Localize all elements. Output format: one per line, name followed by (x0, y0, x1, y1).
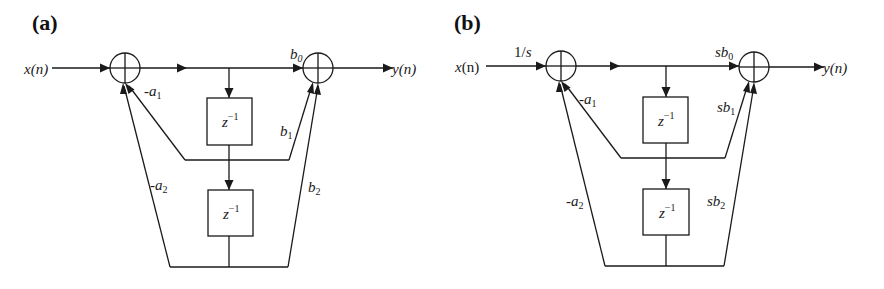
panel-a-coef-a2: -a2 (150, 177, 168, 195)
panel-b-output-label: y(n) (821, 60, 847, 77)
filter-diagram: (a) x(n) b0 z−1 (0, 0, 884, 289)
panel-a-coef-a1: -a1 (144, 83, 162, 101)
panel-a-adder-1 (110, 53, 140, 83)
arrowhead-icon (225, 180, 234, 190)
panel-a-feedback-a2 (124, 86, 170, 267)
panel-a-delay-1: z−1 (207, 98, 252, 145)
arrowhead-icon (662, 87, 671, 97)
panel-b: (b) x(n) 1/s sb0 z−1 (454, 10, 847, 266)
panel-a-coef-b0: b0 (290, 46, 303, 64)
panel-b-label: (b) (454, 10, 481, 35)
panel-b-feedback-a2 (560, 84, 605, 266)
panel-a-input-label: x(n) (23, 61, 48, 78)
panel-b-input-gain: 1/s (514, 44, 532, 60)
arrowhead-icon (314, 83, 321, 95)
arrowhead-icon (750, 82, 757, 94)
arrowhead-icon (225, 88, 234, 98)
panel-b-coef-sb0: sb0 (715, 44, 733, 62)
panel-a-label: (a) (32, 10, 58, 35)
panel-b-feedback-a1 (565, 84, 621, 158)
panel-b-delay-2: z−1 (643, 189, 689, 235)
arrowhead-icon (743, 81, 750, 93)
panel-a-coef-b1: b1 (280, 123, 293, 141)
arrowhead-icon (293, 64, 303, 73)
panel-b-coef-a2: -a2 (566, 193, 584, 211)
arrowhead-icon (662, 179, 671, 189)
panel-a-output-label: y(n) (390, 61, 416, 78)
panel-a-coef-b2: b2 (308, 179, 321, 197)
panel-b-coef-a1: -a1 (579, 91, 597, 109)
panel-b-coef-sb2: sb2 (707, 193, 725, 211)
panel-b-coef-sb1: sb1 (717, 99, 735, 117)
arrowhead-icon (177, 64, 187, 73)
panel-a: (a) x(n) b0 z−1 (23, 10, 416, 267)
arrowhead-icon (729, 62, 739, 71)
arrowhead-icon (610, 62, 620, 71)
panel-b-adder-1 (546, 51, 576, 81)
arrowhead-icon (100, 64, 110, 73)
panel-a-feedforward-b1 (289, 85, 312, 160)
arrowhead-icon (536, 62, 546, 71)
panel-b-delay-1: z−1 (643, 97, 688, 143)
panel-b-feedforward-sb1 (725, 84, 748, 158)
panel-a-delay-2: z−1 (208, 190, 253, 236)
arrowhead-icon (307, 82, 314, 94)
panel-b-adder-2 (739, 52, 769, 82)
panel-b-input-label: x(n) (454, 59, 479, 76)
panel-a-adder-2 (303, 53, 333, 83)
